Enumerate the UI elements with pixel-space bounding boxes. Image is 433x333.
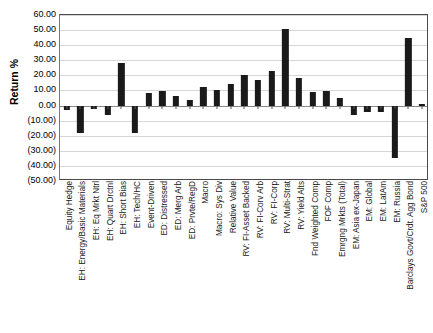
x-tick-mark xyxy=(394,106,395,109)
bar-slot xyxy=(101,15,115,179)
x-tick-mark xyxy=(176,106,177,109)
bar-slot xyxy=(374,15,388,179)
bar[interactable] xyxy=(405,38,411,106)
bar-slot xyxy=(279,15,293,179)
bar-slot xyxy=(402,15,416,179)
y-tick-label: (10.00) xyxy=(8,115,56,124)
x-label-slot: Equity Hedge xyxy=(59,181,73,331)
bar[interactable] xyxy=(159,91,165,105)
y-tick-label: 20.00 xyxy=(8,70,56,79)
bar-slot xyxy=(115,15,129,179)
y-tick-label: (40.00) xyxy=(8,160,56,169)
bar[interactable] xyxy=(228,84,234,105)
x-tick-mark xyxy=(340,106,341,109)
bar-slot xyxy=(306,15,320,179)
x-label-slot: EM: Russia xyxy=(387,181,401,331)
x-tick-mark xyxy=(66,106,67,109)
bar-slot xyxy=(87,15,101,179)
x-label-slot: ED: Distressed xyxy=(155,181,169,331)
x-label-slot: EH: Short Bias xyxy=(114,181,128,331)
x-tick-label: S&P 500 xyxy=(421,181,429,213)
x-tick-mark xyxy=(107,106,108,109)
x-tick-mark xyxy=(299,106,300,109)
x-tick-mark xyxy=(80,106,81,109)
y-tick-label: 60.00 xyxy=(8,10,56,19)
x-tick-mark xyxy=(353,106,354,109)
x-tick-mark xyxy=(312,106,313,109)
x-label-slot: RV: FI-Asset Backed xyxy=(237,181,251,331)
bar[interactable] xyxy=(255,80,261,106)
bar-slot xyxy=(156,15,170,179)
bar-slot xyxy=(197,15,211,179)
x-label-slot: FOF Comp xyxy=(319,181,333,331)
x-label-slot: Macro: Sys Div xyxy=(209,181,223,331)
x-tick-mark xyxy=(203,106,204,109)
x-label-slot: EH: Energy/Basic Materials xyxy=(73,181,87,331)
bar[interactable] xyxy=(214,90,220,105)
bar[interactable] xyxy=(282,29,288,106)
plot-area xyxy=(59,14,428,180)
y-tick-label: 50.00 xyxy=(8,25,56,34)
bar-series xyxy=(60,15,427,179)
bar[interactable] xyxy=(200,87,206,106)
x-label-slot: S&P 500 xyxy=(414,181,428,331)
x-label-slot: RV: Yield Alts xyxy=(291,181,305,331)
x-label-slot: EH: Tech/HC xyxy=(127,181,141,331)
x-tick-mark xyxy=(217,106,218,109)
x-label-slot: Relative Value xyxy=(223,181,237,331)
bar-slot xyxy=(265,15,279,179)
bar[interactable] xyxy=(118,63,124,105)
bar-slot xyxy=(128,15,142,179)
x-label-slot: RV: Multi-Strat xyxy=(278,181,292,331)
y-tick-label: 40.00 xyxy=(8,40,56,49)
bar-slot xyxy=(169,15,183,179)
x-tick-mark xyxy=(162,106,163,109)
x-tick-mark xyxy=(135,106,136,109)
bar[interactable] xyxy=(296,78,302,105)
x-tick-mark xyxy=(408,106,409,109)
bar[interactable] xyxy=(132,106,138,133)
bar-slot xyxy=(320,15,334,179)
y-tick-label: (20.00) xyxy=(8,130,56,139)
x-label-slot: Fnd Weighted Comp xyxy=(305,181,319,331)
bar[interactable] xyxy=(310,92,316,106)
bar[interactable] xyxy=(146,93,152,105)
x-tick-mark xyxy=(367,106,368,109)
x-tick-mark xyxy=(189,106,190,109)
bar-slot xyxy=(210,15,224,179)
bar-slot xyxy=(251,15,265,179)
bar-slot xyxy=(347,15,361,179)
y-tick-label: 10.00 xyxy=(8,85,56,94)
bar-chart: Return % 60.0050.0040.0030.0020.0010.000… xyxy=(0,0,433,333)
x-label-slot: EH: Eq Mrkt Ntrl xyxy=(86,181,100,331)
x-tick-mark xyxy=(326,106,327,109)
bar[interactable] xyxy=(77,106,83,133)
y-tick-label: 30.00 xyxy=(8,55,56,64)
x-tick-mark xyxy=(244,106,245,109)
bar[interactable] xyxy=(337,98,343,106)
x-label-slot: EM: LatAm xyxy=(373,181,387,331)
x-label-slot: RV: FI-Corv Arb xyxy=(250,181,264,331)
x-tick-mark xyxy=(422,106,423,109)
x-label-slot: Macro xyxy=(196,181,210,331)
x-tick-mark xyxy=(230,106,231,109)
bar[interactable] xyxy=(323,91,329,105)
bar-slot xyxy=(415,15,428,179)
bar[interactable] xyxy=(269,71,275,106)
x-tick-mark xyxy=(94,106,95,109)
bar-slot xyxy=(224,15,238,179)
bar-slot xyxy=(238,15,252,179)
bar[interactable] xyxy=(173,96,179,105)
bar[interactable] xyxy=(392,106,398,159)
y-tick-label: 0.00 xyxy=(8,100,56,109)
y-tick-label: (50.00) xyxy=(8,176,56,185)
bar[interactable] xyxy=(241,75,247,105)
x-tick-mark xyxy=(258,106,259,109)
bar-slot xyxy=(388,15,402,179)
bar-slot xyxy=(74,15,88,179)
x-label-slot: ED: Prvte/RegD xyxy=(182,181,196,331)
x-label-slot: EM: Global xyxy=(360,181,374,331)
x-tick-mark xyxy=(121,106,122,109)
x-label-slot: EH: Quart Drctnl xyxy=(100,181,114,331)
y-tick-label: (30.00) xyxy=(8,145,56,154)
